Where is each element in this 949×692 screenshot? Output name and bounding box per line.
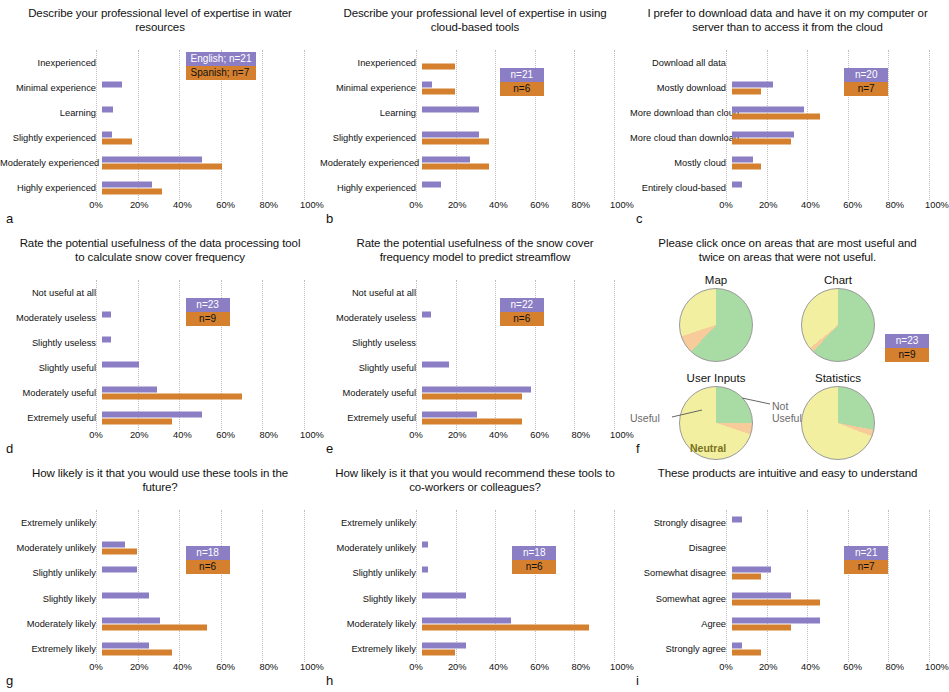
- bar-rows: InexperiencedMinimal experienceLearningS…: [0, 50, 312, 200]
- panel-h: How likely is it that you would recommen…: [320, 460, 630, 692]
- category-label: Somewhat agree: [630, 594, 732, 604]
- panel-d-title: Rate the potential usefulness of the dat…: [0, 230, 320, 264]
- bar-track: [732, 75, 937, 100]
- x-axis-tick: 60%: [216, 430, 235, 440]
- bar-english: [732, 516, 742, 522]
- x-axis-tick: 0%: [719, 200, 732, 210]
- category-label: Strongly agree: [630, 644, 732, 654]
- pie-leader-lines: [630, 274, 880, 474]
- bar-row: Learning: [0, 100, 312, 125]
- bar-english: [102, 386, 157, 392]
- legend-english: n=18: [186, 546, 230, 560]
- bar-spanish: [102, 650, 172, 656]
- category-label: Entirely cloud-based: [630, 183, 732, 193]
- bar-row: Inexperienced: [320, 50, 622, 75]
- category-label: Extremely useful: [0, 413, 102, 423]
- bar-track: [102, 405, 312, 430]
- bar-row: Mostly cloud: [630, 150, 937, 175]
- bar-rows: Download all dataMostly downloadMore dow…: [630, 50, 937, 200]
- bar-row: Moderately likely: [0, 611, 312, 636]
- bar-row: Disagree: [630, 535, 937, 560]
- bar-row: Extremely unlikely: [320, 510, 622, 535]
- bar-row: Mostly download: [630, 75, 937, 100]
- bar-row: Extremely useful: [0, 405, 312, 430]
- x-axis-tick: 80%: [885, 662, 904, 672]
- bar-row: Slightly likely: [320, 586, 622, 611]
- category-label: More download than cloud: [630, 108, 732, 118]
- bar-row: Strongly disagree: [630, 510, 937, 535]
- bar-spanish: [732, 138, 791, 144]
- category-label: Slightly likely: [320, 594, 422, 604]
- bar-row: Entirely cloud-based: [630, 175, 937, 200]
- x-axis: 0%20%40%60%80%100%: [726, 662, 937, 684]
- bar-english: [102, 131, 112, 137]
- bar-english: [732, 131, 794, 137]
- bar-row: Agree: [630, 611, 937, 636]
- x-axis-tick: 40%: [173, 662, 192, 672]
- x-axis-tick: 20%: [130, 430, 149, 440]
- bar-spanish: [732, 88, 761, 94]
- x-axis-tick: 60%: [843, 200, 862, 210]
- bar-track: [102, 510, 312, 535]
- category-label: Learning: [320, 108, 422, 118]
- bar-track: [732, 175, 937, 200]
- bar-row: Extremely likely: [0, 637, 312, 662]
- category-label: Highly experienced: [0, 183, 102, 193]
- bar-english: [422, 311, 431, 317]
- bar-row: Extremely unlikely: [0, 510, 312, 535]
- x-axis-tick: 60%: [216, 662, 235, 672]
- bar-row: Slightly useful: [0, 355, 312, 380]
- bar-track: [102, 100, 312, 125]
- bar-rows: Not useful at allModerately uselessSligh…: [0, 280, 312, 430]
- category-label: Minimal experience: [320, 83, 422, 93]
- panel-e-chart: Not useful at allModerately uselessSligh…: [320, 276, 630, 460]
- panel-g: How likely is it that you would use thes…: [0, 460, 320, 692]
- x-axis-tick: 100%: [925, 662, 949, 672]
- bar-row: Slightly unlikely: [320, 561, 622, 586]
- bar-track: [732, 586, 937, 611]
- category-label: Slightly unlikely: [0, 568, 102, 578]
- bar-track: [102, 330, 312, 355]
- panel-d-chart: Not useful at allModerately uselessSligh…: [0, 276, 320, 460]
- category-label: Slightly unlikely: [320, 568, 422, 578]
- legend-english: n=21: [844, 546, 888, 560]
- bar-row: Highly experienced: [320, 175, 622, 200]
- x-axis-tick: 40%: [173, 430, 192, 440]
- panel-c: I prefer to download data and have it on…: [630, 0, 945, 230]
- bar-english: [732, 181, 742, 187]
- bar-spanish: [102, 624, 207, 630]
- x-axis: 0%20%40%60%80%100%: [416, 200, 622, 222]
- bar-rows: Extremely unlikelyModerately unlikelySli…: [320, 510, 622, 662]
- bar-english: [732, 592, 791, 598]
- panel-d-letter: d: [6, 441, 13, 456]
- legend-spanish: n=7: [844, 560, 888, 574]
- bar-spanish: [732, 163, 761, 169]
- legend: n=23n=9: [885, 334, 929, 362]
- panel-a-title: Describe your professional level of expe…: [0, 0, 320, 34]
- legend-spanish: n=9: [186, 312, 230, 326]
- bar-track: [422, 355, 622, 380]
- bar-english: [102, 156, 202, 162]
- category-label: Download all data: [630, 58, 732, 68]
- category-label: Extremely likely: [0, 644, 102, 654]
- category-label: Not useful at all: [0, 288, 102, 298]
- bar-english: [422, 131, 479, 137]
- bar-track: [732, 611, 937, 636]
- bar-row: Inexperienced: [0, 50, 312, 75]
- legend: n=21n=7: [844, 546, 888, 574]
- bar-english: [732, 567, 771, 573]
- legend-english: n=23: [885, 334, 929, 348]
- x-axis-tick: 20%: [448, 200, 467, 210]
- bar-track: [102, 611, 312, 636]
- bar-row: Moderately experienced: [0, 150, 312, 175]
- category-label: Inexperienced: [320, 58, 422, 68]
- x-axis-tick: 40%: [801, 662, 820, 672]
- bar-track: [422, 380, 622, 405]
- bar-spanish: [422, 418, 522, 424]
- bar-english: [422, 386, 531, 392]
- panel-h-letter: h: [326, 673, 333, 688]
- x-axis-tick: 60%: [216, 200, 235, 210]
- category-label: Slightly useless: [0, 338, 102, 348]
- category-label: Moderately useless: [0, 313, 102, 323]
- bar-track: [422, 150, 622, 175]
